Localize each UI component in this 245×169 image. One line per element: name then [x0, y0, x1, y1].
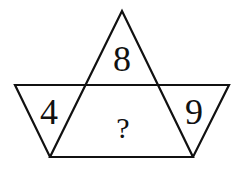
center-unknown-number: ? — [116, 111, 129, 144]
top-region-number: 8 — [113, 39, 131, 79]
diagram-canvas: 8 4 9 ? — [0, 0, 245, 169]
left-region-number: 4 — [40, 92, 58, 132]
right-region-number: 9 — [185, 92, 203, 132]
puzzle-diagram: 8 4 9 ? — [0, 0, 245, 169]
